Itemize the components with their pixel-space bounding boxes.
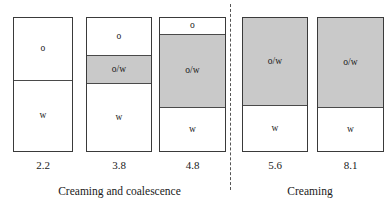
phase-label: w — [347, 125, 354, 135]
phase-label: o/w — [343, 58, 358, 68]
group-separator-dashed-line — [230, 4, 231, 190]
vessel-1: o w — [13, 17, 73, 152]
phase-label: o — [190, 21, 195, 31]
vessel-4: o/w w — [242, 17, 308, 152]
caption-creaming: Creaming — [236, 186, 384, 198]
vessel-3: o o/w w — [159, 17, 226, 152]
vessel-1-phase-water: w — [14, 80, 72, 151]
vessel-1-value: 2.2 — [13, 160, 73, 171]
vessel-5-value: 8.1 — [317, 160, 384, 171]
vessel-5: o/w w — [317, 17, 384, 152]
phase-label: w — [189, 125, 196, 135]
phase-label: o — [41, 44, 46, 54]
phase-label: o/w — [185, 66, 200, 76]
phase-label: o/w — [268, 57, 283, 67]
vessel-2-phase-oil: o — [87, 18, 151, 55]
vessel-4-phase-water: w — [243, 105, 307, 151]
phase-label: w — [272, 124, 279, 134]
vessel-2: o o/w w — [86, 17, 152, 152]
vessel-5-phase-water: w — [318, 107, 383, 151]
emulsion-stability-diagram: o w 2.2 o o/w w 3.8 o o/w w 4.8 — [0, 0, 388, 208]
vessel-2-phase-emulsion: o/w — [87, 55, 151, 83]
vessel-2-phase-water: w — [87, 83, 151, 151]
vessel-3-phase-emulsion: o/w — [160, 34, 225, 107]
vessel-4-phase-emulsion: o/w — [243, 18, 307, 105]
vessel-5-phase-emulsion: o/w — [318, 18, 383, 107]
phase-label: o/w — [112, 65, 127, 75]
vessel-3-phase-water: w — [160, 107, 225, 151]
phase-label: w — [116, 113, 123, 123]
phase-label: w — [40, 111, 47, 121]
phase-label: o — [117, 32, 122, 42]
vessel-3-phase-oil: o — [160, 18, 225, 34]
vessel-3-value: 4.8 — [159, 160, 226, 171]
vessel-1-phase-oil: o — [14, 18, 72, 80]
vessel-2-value: 3.8 — [86, 160, 152, 171]
caption-creaming-and-coalescence: Creaming and coalescence — [13, 186, 226, 198]
vessel-4-value: 5.6 — [242, 160, 308, 171]
